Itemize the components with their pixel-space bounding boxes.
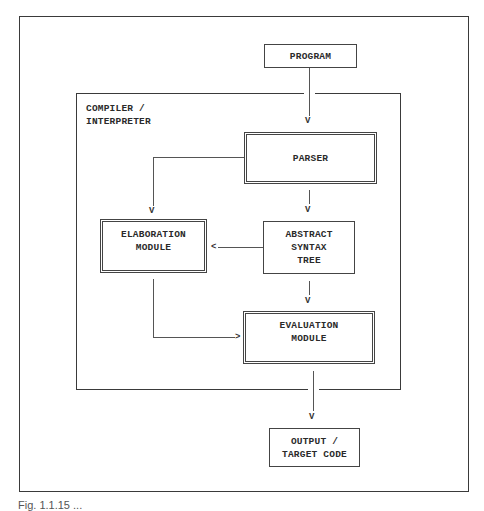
edge-evaluation-output — [313, 371, 314, 411]
node-parser: PARSER — [244, 132, 377, 184]
node-program: PROGRAM — [264, 44, 357, 68]
edge-parser-ast — [309, 190, 310, 204]
edge-ast-evaluation — [309, 281, 310, 295]
arrow-right-icon: > — [235, 333, 240, 342]
container-label: COMPILER / INTERPRETER — [86, 102, 151, 128]
arrow-down-icon: V — [305, 206, 310, 215]
arrow-down-icon: V — [305, 117, 310, 126]
arrow-left-icon: < — [211, 243, 216, 252]
arrow-down-icon: V — [305, 297, 310, 306]
edge-elaboration-evaluation — [153, 279, 154, 337]
arrow-down-icon: V — [309, 413, 314, 422]
edge-parser-elaboration — [153, 157, 244, 158]
node-ast: ABSTRACT SYNTAX TREE — [263, 221, 355, 274]
node-evaluation: EVALUATION MODULE — [243, 311, 375, 364]
node-elaboration: ELABORATION MODULE — [100, 219, 207, 273]
arrow-down-icon: V — [149, 207, 154, 216]
node-output: OUTPUT / TARGET CODE — [269, 428, 360, 467]
figure-caption: Fig. 1.1.15 ... — [18, 499, 82, 511]
edge-ast-elaboration — [218, 247, 263, 248]
